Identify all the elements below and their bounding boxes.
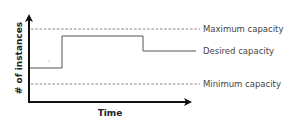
x-axis-label: Time	[98, 108, 123, 118]
marker-dot	[48, 60, 49, 61]
desired-capacity-label: Desired capacity	[203, 46, 274, 56]
desired-capacity-line	[30, 36, 196, 68]
capacity-diagram: Maximum capacity Desired capacity Minimu…	[0, 0, 293, 124]
y-axis-label: # of instances	[14, 22, 24, 94]
maximum-capacity-label: Maximum capacity	[203, 24, 283, 34]
minimum-capacity-label: Minimum capacity	[203, 79, 281, 89]
